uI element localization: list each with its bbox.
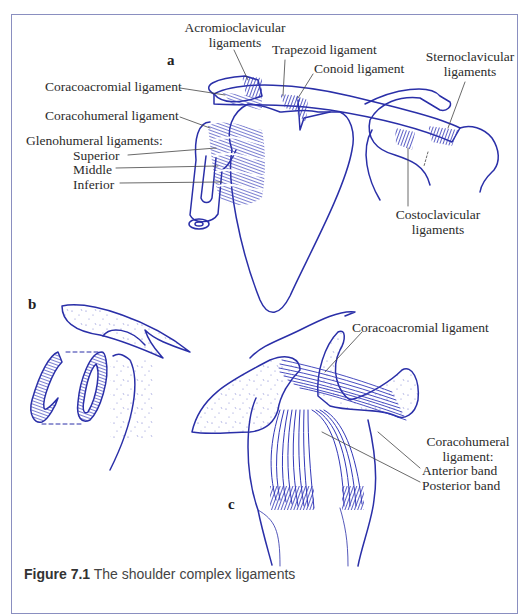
label-line: Acromioclavicular (168, 20, 302, 35)
label-anterior-band: Anterior band (422, 463, 497, 478)
label-coracohumeral-ligament: Coracohumeral ligament (45, 108, 179, 123)
panel-b-letter: b (28, 296, 36, 313)
humerus-cut (189, 219, 209, 229)
label-line: ligaments (420, 64, 520, 79)
label-trapezoid-ligament: Trapezoid ligament (272, 42, 377, 57)
costoclavicular-ligament (395, 128, 415, 150)
panel-c-letter: c (228, 496, 235, 513)
label-line: Sternoclavicular (420, 49, 520, 64)
label-glenohumeral-inferior: Inferior (73, 177, 114, 192)
glenoid-c-shape (31, 352, 62, 422)
label-costoclavicular-ligaments: Costoclavicular ligaments (378, 207, 498, 237)
label-line: ligaments (378, 222, 498, 237)
caption-number: Figure 7.1 (24, 566, 90, 582)
label-line: ligament: (418, 449, 518, 464)
caption-text: The shoulder complex ligaments (94, 566, 296, 582)
acromioclavicular-ligament (242, 76, 262, 98)
panel-a-letter: a (167, 52, 175, 69)
label-glenohumeral-middle: Middle (73, 162, 112, 177)
label-glenohumeral-heading: Glenohumeral ligaments: (26, 133, 163, 148)
glenohumeral-capsule (208, 122, 265, 205)
conoid-ligament (296, 96, 308, 122)
sternoclavicular-ligament (428, 126, 458, 146)
label-conoid-ligament: Conoid ligament (314, 61, 404, 76)
figure-caption: Figure 7.1 The shoulder complex ligament… (24, 566, 295, 582)
label-posterior-band: Posterior band (422, 478, 500, 493)
acromion-c (192, 357, 300, 434)
label-coracoacromial-ligament-c: Coracoacromial ligament (352, 320, 489, 335)
label-coracoacromial-ligament: Coracoacromial ligament (45, 79, 182, 94)
label-line: Coracohumeral (418, 434, 518, 449)
panel-c-drawing (192, 312, 420, 566)
panel-b-drawing (31, 305, 190, 470)
label-sternoclavicular-ligaments: Sternoclavicular ligaments (420, 49, 520, 79)
sternum (460, 126, 498, 192)
glenoid-o-shape (78, 352, 107, 421)
label-glenohumeral-superior: Superior (73, 148, 120, 163)
label-coracohumeral-ligament-c: Coracohumeral ligament: (418, 434, 518, 464)
label-line: Costoclavicular (378, 207, 498, 222)
